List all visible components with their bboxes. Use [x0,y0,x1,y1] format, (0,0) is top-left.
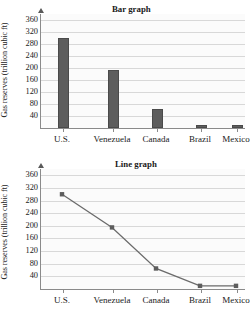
data-point-marker [198,284,202,288]
x-tick-label: Mexico [222,134,250,144]
bar-graph-y-tick-labels: 4080120160200240280320360 [14,0,38,155]
bar [152,109,163,129]
data-point-marker [110,225,114,229]
line-graph-series [0,155,250,310]
data-point-marker [60,192,64,196]
bar-graph-y-axis-title: Gas reserves (trillion cubic ft) [0,5,14,135]
x-tick-label: Brazil [189,295,211,305]
x-tick-mark [201,129,202,132]
bar-graph-plot-area [40,14,245,129]
gridline [41,80,245,81]
gridline [41,20,245,21]
data-point-marker [234,284,238,288]
y-tick-label: 320 [14,28,38,36]
bar-graph-title: Bar graph [112,4,151,14]
x-tick-label: Mexico [222,295,250,305]
x-tick-mark [237,129,238,132]
x-tick-mark [63,129,64,132]
y-tick-label: 280 [14,40,38,48]
gridline [41,92,245,93]
x-tick-mark [113,129,114,132]
bar [232,125,243,128]
x-tick-label: Venezuela [94,134,131,144]
y-tick-label: 80 [14,100,38,108]
line-graph-figure: Gas reserves (trillion cubic ft) 4080120… [0,155,250,310]
data-point-marker [154,266,158,270]
bar-graph-figure: Gas reserves (trillion cubic ft) 4080120… [0,0,250,155]
x-tick-label: Brazil [189,134,211,144]
bar [108,70,119,129]
line-path [62,194,236,286]
x-tick-mark [157,129,158,132]
x-tick-label: Venezuela [94,295,131,305]
gridline [41,68,245,69]
y-tick-label: 120 [14,88,38,96]
x-tick-label: Canada [143,134,170,144]
y-tick-label: 200 [14,64,38,72]
bar-graph-y-axis-arrow [38,8,44,13]
y-tick-label: 40 [14,112,38,120]
gridline [41,104,245,105]
gridline [41,116,245,117]
line-graph-title: Line graph [115,159,157,169]
x-tick-label: U.S. [54,295,70,305]
gridline [41,32,245,33]
gridline [41,44,245,45]
y-tick-label: 360 [14,16,38,24]
bar [58,38,69,128]
gridline [41,56,245,57]
x-tick-label: U.S. [54,134,70,144]
x-tick-label: Canada [143,295,170,305]
y-tick-label: 160 [14,76,38,84]
y-tick-label: 240 [14,52,38,60]
bar [196,125,207,128]
